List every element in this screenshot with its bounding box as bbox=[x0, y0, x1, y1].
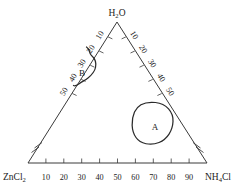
bottom-tick-label: 30 bbox=[78, 173, 86, 182]
bottom-tick-label: 50 bbox=[113, 173, 121, 182]
left-tick-label: 40 bbox=[67, 72, 79, 84]
left-tick-label: 10 bbox=[94, 29, 106, 41]
region-label-b: B bbox=[79, 68, 85, 78]
corner-label-nh4cl: NH4Cl bbox=[205, 172, 231, 183]
diagram-canvas: H2O ZnCl2 NH4Cl 10 20 30 40 50 60 70 80 … bbox=[0, 0, 234, 192]
right-tick-label: 50 bbox=[164, 86, 176, 98]
left-axis-break-mark bbox=[32, 143, 43, 153]
bottom-tick-label: 80 bbox=[167, 173, 175, 182]
right-tick-label: 20 bbox=[137, 43, 149, 55]
left-tick-label: 50 bbox=[58, 86, 70, 98]
region-label-a: A bbox=[152, 122, 159, 132]
apex-label-h2o: H2O bbox=[108, 8, 125, 19]
right-tick-label: 40 bbox=[155, 72, 167, 84]
bottom-axis-ticks bbox=[46, 159, 189, 164]
right-tick-labels: 10 20 30 40 50 bbox=[128, 29, 176, 97]
left-tick-label: 20 bbox=[85, 43, 97, 55]
bottom-tick-label: 60 bbox=[131, 173, 139, 182]
bottom-tick-labels: 10 20 30 40 50 60 70 80 90 bbox=[42, 173, 193, 182]
ternary-phase-diagram: H2O ZnCl2 NH4Cl 10 20 30 40 50 60 70 80 … bbox=[0, 0, 234, 192]
left-tick-labels: 10 20 30 40 50 bbox=[58, 29, 106, 97]
right-axis-line bbox=[117, 22, 207, 163]
right-tick-label: 30 bbox=[146, 58, 158, 70]
right-tick-label: 10 bbox=[128, 29, 140, 41]
bottom-tick-label: 70 bbox=[149, 173, 157, 182]
bottom-tick-label: 40 bbox=[96, 173, 104, 182]
left-axis-line bbox=[28, 22, 117, 163]
right-axis-break-mark bbox=[193, 143, 204, 153]
corner-label-zncl2: ZnCl2 bbox=[3, 172, 26, 183]
bottom-tick-label: 10 bbox=[42, 173, 50, 182]
bottom-tick-label: 90 bbox=[185, 173, 193, 182]
bottom-tick-label: 20 bbox=[60, 173, 68, 182]
